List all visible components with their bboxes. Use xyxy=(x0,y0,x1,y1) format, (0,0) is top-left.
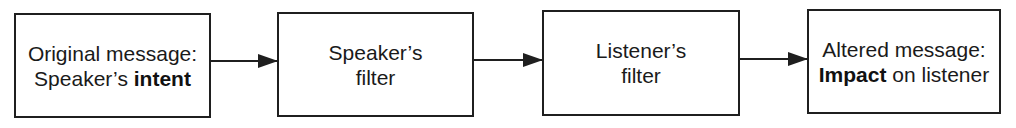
arrow-speaker-to-listener-filter xyxy=(474,59,542,61)
arrowhead-icon xyxy=(258,54,278,68)
arrow-listener-filter-to-altered xyxy=(740,58,807,60)
node-speaker-filter-line1: Speaker’s xyxy=(329,40,423,65)
node-speaker-filter-line2: filter xyxy=(356,65,396,90)
node-listener-filter-line2: filter xyxy=(621,63,661,88)
impact-text: Impact xyxy=(819,63,887,86)
node-altered-message: Altered message: Impact on listener xyxy=(807,9,1001,114)
node-listener-filter-line1: Listener’s xyxy=(596,38,686,63)
speakers-text: Speaker’s xyxy=(34,67,134,90)
node-altered-message-line2: Impact on listener xyxy=(819,62,989,87)
node-original-message-line2: Speaker’s intent xyxy=(34,66,191,91)
arrowhead-icon xyxy=(788,52,808,66)
arrow-original-to-speaker-filter xyxy=(211,60,277,62)
intent-text: intent xyxy=(134,67,191,90)
node-listener-filter: Listener’s filter xyxy=(542,10,740,116)
arrowhead-icon xyxy=(523,53,543,67)
node-altered-message-line1: Altered message: xyxy=(822,37,985,62)
node-speaker-filter: Speaker’s filter xyxy=(277,12,474,117)
on-listener-text: on listener xyxy=(886,63,989,86)
node-original-message-line1: Original message: xyxy=(28,41,197,66)
node-original-message: Original message: Speaker’s intent xyxy=(14,13,211,118)
